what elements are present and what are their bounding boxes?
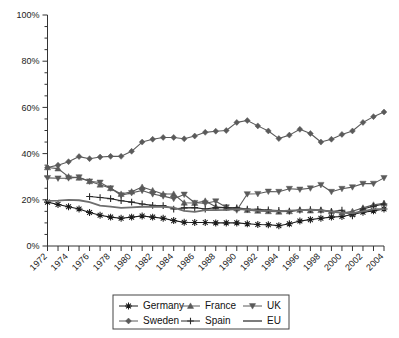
series-sweden bbox=[45, 109, 387, 170]
marker-asterisk bbox=[65, 203, 72, 210]
marker-asterisk bbox=[191, 219, 198, 226]
x-tick-label: 1998 bbox=[301, 251, 322, 272]
marker-diamond bbox=[213, 128, 219, 134]
x-tick-label: 1972 bbox=[28, 251, 49, 272]
chart-legend: GermanyFranceUKSwedenSpainEU bbox=[113, 295, 289, 329]
chart-container: 0%20%40%60%80%100% 197219741976197819801… bbox=[0, 0, 399, 338]
x-tick-label: 1990 bbox=[217, 251, 238, 272]
marker-diamond bbox=[339, 131, 345, 137]
x-tick-label: 1982 bbox=[133, 251, 154, 272]
marker-asterisk bbox=[181, 219, 188, 226]
x-tick-label: 1978 bbox=[91, 251, 112, 272]
x-tick-label: 1992 bbox=[238, 251, 259, 272]
marker-diamond bbox=[192, 133, 198, 139]
marker-asterisk bbox=[233, 219, 240, 226]
x-tick-label: 1988 bbox=[196, 251, 217, 272]
legend-label: Germany bbox=[143, 300, 184, 311]
marker-diamond bbox=[381, 109, 387, 115]
marker-asterisk bbox=[97, 212, 104, 219]
series-layer bbox=[44, 109, 387, 229]
marker-diamond bbox=[286, 132, 292, 138]
y-tick-label: 20% bbox=[21, 195, 39, 205]
y-tick-label: 0% bbox=[26, 241, 39, 251]
marker-asterisk bbox=[107, 214, 114, 221]
marker-plus bbox=[97, 194, 104, 201]
marker-asterisk bbox=[118, 215, 125, 222]
marker-plus bbox=[118, 197, 125, 204]
marker-diamond bbox=[171, 134, 177, 140]
marker-plus bbox=[107, 195, 114, 202]
x-tick-label: 1980 bbox=[112, 251, 133, 272]
legend-label: Spain bbox=[205, 315, 231, 326]
marker-diamond bbox=[371, 114, 377, 120]
marker-diamond bbox=[108, 153, 114, 159]
x-axis: 1972197419761978198019821984198619881990… bbox=[28, 246, 386, 273]
x-tick-label: 1996 bbox=[280, 251, 301, 272]
marker-diamond bbox=[255, 123, 261, 129]
marker-plus bbox=[86, 193, 93, 200]
legend-label: UK bbox=[267, 300, 281, 311]
marker-plus bbox=[160, 202, 167, 209]
marker-asterisk bbox=[212, 219, 219, 226]
marker-diamond bbox=[160, 134, 166, 140]
legend-label: France bbox=[205, 300, 237, 311]
marker-diamond bbox=[329, 136, 335, 142]
y-tick-label: 100% bbox=[16, 10, 39, 20]
marker-asterisk bbox=[128, 214, 135, 221]
marker-asterisk bbox=[244, 220, 251, 227]
marker-asterisk bbox=[170, 217, 177, 224]
marker-diamond bbox=[202, 129, 208, 135]
marker-asterisk bbox=[254, 221, 261, 228]
marker-triangle-down bbox=[171, 196, 177, 202]
marker-diamond bbox=[150, 136, 156, 142]
marker-asterisk bbox=[265, 221, 272, 228]
marker-triangle-down bbox=[328, 189, 334, 195]
y-tick-label: 60% bbox=[21, 103, 39, 113]
x-tick-label: 1994 bbox=[259, 251, 280, 272]
marker-asterisk bbox=[202, 219, 209, 226]
marker-asterisk bbox=[139, 212, 146, 219]
marker-asterisk bbox=[307, 216, 314, 223]
marker-asterisk bbox=[44, 199, 51, 206]
line-chart: 0%20%40%60%80%100% 197219741976197819801… bbox=[0, 0, 399, 338]
marker-asterisk bbox=[317, 215, 324, 222]
x-tick-label: 1974 bbox=[49, 251, 70, 272]
legend-border bbox=[113, 295, 289, 329]
marker-plus bbox=[128, 199, 135, 206]
legend-label: EU bbox=[267, 315, 281, 326]
marker-asterisk bbox=[223, 219, 230, 226]
marker-asterisk bbox=[296, 218, 303, 225]
legend-label: Sweden bbox=[143, 315, 179, 326]
marker-asterisk bbox=[286, 220, 293, 227]
marker-triangle-down bbox=[97, 180, 103, 186]
marker-asterisk bbox=[149, 214, 156, 221]
marker-diamond bbox=[76, 154, 82, 160]
x-tick-label: 2002 bbox=[343, 251, 364, 272]
x-tick-label: 1984 bbox=[154, 251, 175, 272]
marker-asterisk bbox=[160, 215, 167, 222]
marker-diamond bbox=[87, 156, 93, 162]
x-tick-label: 2004 bbox=[364, 251, 385, 272]
marker-triangle-down bbox=[381, 175, 387, 181]
marker-diamond bbox=[118, 153, 124, 159]
marker-asterisk bbox=[275, 222, 282, 229]
marker-diamond bbox=[244, 118, 250, 124]
marker-asterisk bbox=[86, 209, 93, 216]
y-axis: 0%20%40%60%80%100% bbox=[16, 10, 47, 251]
marker-plus bbox=[149, 202, 156, 209]
marker-plus bbox=[381, 201, 388, 208]
x-tick-label: 2000 bbox=[322, 251, 343, 272]
marker-diamond bbox=[181, 136, 187, 142]
marker-asterisk bbox=[76, 206, 83, 213]
marker-diamond bbox=[297, 126, 303, 132]
marker-diamond bbox=[66, 159, 72, 165]
x-tick-label: 1976 bbox=[70, 251, 91, 272]
y-tick-label: 40% bbox=[21, 149, 39, 159]
marker-diamond bbox=[55, 162, 61, 168]
x-tick-label: 1986 bbox=[175, 251, 196, 272]
marker-diamond bbox=[97, 154, 103, 160]
marker-asterisk bbox=[55, 201, 62, 208]
y-tick-label: 80% bbox=[21, 56, 39, 66]
